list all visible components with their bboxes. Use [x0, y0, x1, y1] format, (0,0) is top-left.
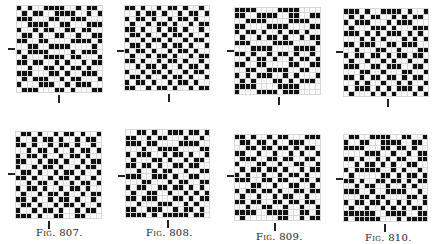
- empty-square: [391, 184, 395, 188]
- filled-square: [349, 64, 353, 69]
- empty-square: [189, 27, 193, 31]
- filled-square: [157, 86, 161, 90]
- filled-square: [91, 159, 95, 163]
- filled-square: [349, 9, 353, 14]
- filled-square: [305, 146, 309, 150]
- empty-square: [70, 176, 74, 180]
- empty-square: [310, 210, 314, 214]
- empty-square: [60, 50, 64, 54]
- empty-square: [392, 37, 396, 42]
- filled-square: [131, 191, 135, 196]
- filled-square: [418, 211, 422, 215]
- empty-square: [294, 57, 298, 61]
- empty-square: [294, 216, 298, 220]
- filled-square: [257, 90, 261, 94]
- filled-square: [147, 207, 151, 212]
- filled-square: [294, 8, 298, 12]
- filled-square: [189, 163, 193, 168]
- filled-square: [65, 60, 69, 64]
- empty-square: [424, 15, 428, 20]
- filled-square: [82, 39, 86, 43]
- empty-square: [152, 27, 156, 31]
- filled-square: [65, 11, 69, 15]
- filled-square: [273, 24, 277, 28]
- filled-square: [199, 86, 203, 90]
- empty-square: [189, 80, 193, 84]
- filled-square: [305, 79, 309, 83]
- filled-square: [163, 169, 167, 174]
- filled-square: [392, 59, 396, 64]
- filled-square: [262, 140, 266, 144]
- empty-square: [344, 81, 348, 86]
- filled-square: [87, 22, 91, 26]
- filled-square: [163, 213, 167, 218]
- empty-square: [205, 163, 209, 168]
- empty-square: [262, 84, 266, 88]
- empty-square: [199, 11, 203, 15]
- empty-square: [240, 183, 244, 187]
- filled-square: [91, 197, 95, 201]
- filled-square: [32, 143, 36, 147]
- filled-square: [27, 181, 31, 185]
- filled-square: [81, 203, 85, 207]
- filled-square: [418, 140, 422, 144]
- empty-square: [178, 38, 182, 42]
- filled-square: [152, 11, 156, 15]
- filled-square: [246, 73, 250, 77]
- empty-square: [158, 130, 162, 135]
- empty-square: [142, 158, 146, 163]
- empty-square: [386, 168, 390, 172]
- filled-square: [184, 136, 188, 141]
- filled-square: [137, 169, 141, 174]
- filled-square: [43, 181, 47, 185]
- empty-square: [87, 33, 91, 37]
- empty-square: [289, 189, 293, 193]
- empty-square: [21, 154, 25, 158]
- empty-square: [316, 52, 320, 56]
- empty-square: [205, 213, 209, 218]
- empty-square: [205, 6, 209, 10]
- empty-square: [371, 9, 375, 14]
- empty-square: [27, 159, 31, 163]
- empty-square: [310, 19, 314, 23]
- filled-square: [418, 189, 422, 193]
- filled-square: [316, 41, 320, 45]
- empty-square: [300, 62, 304, 66]
- empty-square: [283, 183, 287, 187]
- filled-square: [158, 202, 162, 207]
- filled-square: [235, 30, 239, 34]
- filled-square: [344, 42, 348, 47]
- filled-square: [402, 184, 406, 188]
- filled-square: [365, 151, 369, 155]
- filled-square: [386, 200, 390, 204]
- filled-square: [64, 197, 68, 201]
- filled-square: [152, 64, 156, 68]
- filled-square: [70, 154, 74, 158]
- filled-square: [142, 163, 146, 168]
- filled-square: [168, 59, 172, 63]
- empty-square: [365, 37, 369, 42]
- filled-square: [349, 135, 353, 139]
- filled-square: [70, 203, 74, 207]
- filled-square: [125, 49, 129, 53]
- filled-square: [310, 216, 314, 220]
- filled-square: [17, 6, 21, 10]
- empty-square: [251, 13, 255, 17]
- filled-square: [22, 39, 26, 43]
- filled-square: [283, 24, 287, 28]
- empty-square: [262, 194, 266, 198]
- empty-square: [305, 205, 309, 209]
- filled-square: [257, 140, 261, 144]
- filled-square: [262, 189, 266, 193]
- filled-square: [365, 206, 369, 210]
- filled-square: [251, 183, 255, 187]
- empty-square: [257, 146, 261, 150]
- empty-square: [184, 174, 188, 179]
- empty-square: [294, 194, 298, 198]
- empty-square: [305, 35, 309, 39]
- filled-square: [381, 206, 385, 210]
- empty-square: [300, 73, 304, 77]
- left-tick-mark: [227, 175, 234, 177]
- filled-square: [370, 151, 374, 155]
- filled-square: [38, 159, 42, 163]
